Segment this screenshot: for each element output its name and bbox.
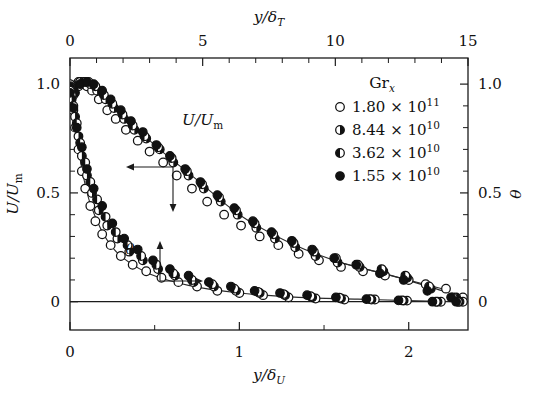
data-point (303, 291, 312, 300)
tick-label: 0 (65, 32, 75, 50)
data-point (111, 228, 120, 237)
data-point (330, 254, 339, 263)
tick-label: 15 (458, 32, 477, 50)
temperature-curve-label: θ (125, 240, 135, 258)
legend-exponent: 11 (427, 96, 440, 108)
data-point (399, 276, 408, 285)
data-point (72, 123, 81, 132)
legend-mantissa: 8.44 (352, 121, 390, 139)
data-point (362, 295, 371, 304)
data-point (66, 89, 75, 98)
tick-label: 0 (50, 293, 60, 311)
tick-label: 1.0 (36, 75, 60, 93)
data-point (442, 284, 451, 293)
data-point (184, 271, 193, 280)
bottom-axis-title: y/δU (252, 366, 286, 386)
legend-title: Grx (369, 74, 395, 94)
data-point (376, 269, 385, 278)
data-point (98, 86, 107, 95)
legend-entry-label: 1.80 × 1011 (352, 96, 440, 116)
tick-label: 1 (235, 343, 245, 361)
tick-label: 0.5 (478, 184, 502, 202)
data-point (69, 104, 78, 113)
data-point (203, 197, 212, 206)
velocity-arrow-left-head (126, 164, 134, 171)
left-axis-ticklabels: 00.51.0 (36, 75, 60, 311)
velocity-arrow-down-head (170, 204, 177, 212)
data-point (423, 287, 432, 296)
data-point (352, 260, 361, 269)
bottom-axis-title-symbol: δ (267, 366, 276, 384)
figure-panel: 051015 012 00.51.0 00.51.0 y/δT y/δU U/U… (0, 0, 537, 394)
right-axis-ticklabels: 00.51.0 (478, 75, 502, 311)
data-point (139, 128, 148, 137)
legend-base: 10 (403, 98, 427, 116)
data-point (117, 106, 126, 115)
left-axis-title-sub: m (12, 173, 24, 183)
data-point (106, 95, 115, 104)
data-point (127, 117, 136, 126)
data-point (250, 287, 259, 296)
chart-canvas: 051015 012 00.51.0 00.51.0 y/δT y/δU U/U… (0, 0, 537, 394)
legend-times: × (390, 167, 403, 185)
data-point (181, 165, 190, 174)
legend-title-main: Gr (369, 74, 389, 92)
tick-label: 10 (326, 32, 345, 50)
data-point (159, 158, 168, 167)
right-axis-ticks (460, 84, 468, 302)
data-point (249, 217, 258, 226)
legend-times: × (390, 98, 403, 116)
top-axis-title: y/δT (253, 8, 285, 28)
data-point (188, 184, 197, 193)
legend-exponent: 10 (427, 142, 440, 154)
legend-exponent: 10 (427, 119, 440, 131)
data-point (227, 282, 236, 291)
legend-base: 10 (403, 144, 427, 162)
tick-label: 5 (198, 32, 208, 50)
data-point (205, 278, 214, 287)
theta-arrow-up-head (157, 241, 164, 249)
data-point (117, 252, 126, 261)
data-point (106, 241, 115, 250)
bottom-axis-ticklabels: 012 (65, 343, 413, 361)
data-point (428, 297, 437, 306)
tick-label: 1.0 (478, 75, 502, 93)
top-axis-title-sub: T (277, 16, 285, 28)
data-point (452, 297, 461, 306)
legend-mantissa: 1.80 (352, 98, 390, 116)
legend-entry-label: 8.44 × 1010 (352, 119, 440, 139)
legend-mantissa: 3.62 (352, 144, 390, 162)
top-axis-ticklabels: 051015 (65, 32, 477, 50)
tick-label: 0 (65, 343, 75, 361)
right-axis-title: θ (507, 189, 525, 199)
data-point (91, 217, 100, 226)
data-point (220, 210, 229, 219)
data-point (394, 296, 403, 305)
data-point (145, 147, 154, 156)
legend-marker-open-circle (336, 103, 345, 112)
legend-entry-label: 3.62 × 1010 (352, 142, 440, 162)
data-point (152, 141, 161, 150)
data-point (128, 260, 137, 269)
legend-entry-label: 1.55 × 1010 (352, 165, 440, 185)
legend-exponent: 10 (427, 165, 440, 177)
data-point (237, 221, 246, 230)
data-point (133, 245, 142, 254)
data-point (196, 178, 205, 187)
data-point (78, 143, 87, 152)
velocity-label-sub: m (213, 119, 223, 131)
data-point (101, 213, 110, 222)
data-point (166, 265, 175, 274)
data-point (83, 165, 92, 174)
data-point (332, 293, 341, 302)
top-axis-ticks (70, 58, 468, 66)
data-point (230, 204, 239, 213)
velocity-label-main: U/U (182, 111, 214, 129)
data-point (86, 202, 95, 211)
legend-mantissa: 1.55 (352, 167, 390, 185)
legend-entries: 1.80 × 10118.44 × 10103.62 × 10101.55 × … (336, 96, 440, 185)
data-point (288, 236, 297, 245)
legend: Grx 1.80 × 10118.44 × 10103.62 × 10101.5… (336, 74, 440, 185)
left-axis-title-main: U/U (4, 182, 22, 214)
data-point (142, 267, 151, 276)
